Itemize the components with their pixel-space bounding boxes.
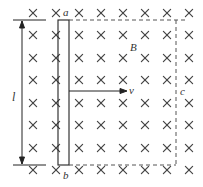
field-cross-icon bbox=[29, 166, 36, 173]
field-cross-icon bbox=[97, 76, 104, 83]
field-cross-icon bbox=[75, 31, 82, 38]
field-cross-icon bbox=[163, 76, 170, 83]
field-cross-icon bbox=[185, 144, 192, 151]
field-cross-icon bbox=[97, 31, 104, 38]
field-cross-icon bbox=[29, 9, 36, 16]
field-cross-icon bbox=[185, 76, 192, 83]
field-cross-icon bbox=[141, 166, 148, 173]
field-cross-icon bbox=[141, 31, 148, 38]
field-cross-icon bbox=[185, 54, 192, 61]
field-cross-icon bbox=[97, 54, 104, 61]
label-v: v bbox=[129, 84, 134, 96]
label-length: l bbox=[12, 90, 16, 104]
field-cross-icon bbox=[75, 99, 82, 106]
field-cross-icon bbox=[163, 9, 170, 16]
label-B: B bbox=[130, 41, 137, 53]
field-cross-icon bbox=[97, 144, 104, 151]
label-b: b bbox=[63, 169, 69, 181]
field-cross-icon bbox=[29, 76, 36, 83]
label-c: c bbox=[180, 85, 185, 97]
field-cross-icon bbox=[75, 54, 82, 61]
magnetic-field-diagram: a b B v c l bbox=[0, 0, 203, 187]
dimension-arrow-down-icon bbox=[20, 157, 25, 164]
field-cross-icon bbox=[141, 54, 148, 61]
field-cross-icon bbox=[119, 99, 126, 106]
field-cross-icon bbox=[75, 166, 82, 173]
field-cross-icon bbox=[119, 166, 126, 173]
field-cross-icon bbox=[141, 99, 148, 106]
label-a: a bbox=[63, 6, 69, 18]
field-cross-icon bbox=[119, 9, 126, 16]
field-cross-icon bbox=[97, 121, 104, 128]
field-cross-icon bbox=[29, 121, 36, 128]
field-cross-icon bbox=[185, 121, 192, 128]
field-cross-icon bbox=[163, 166, 170, 173]
field-cross-icon bbox=[141, 144, 148, 151]
dashed-region bbox=[69, 20, 186, 165]
field-cross-icon bbox=[185, 9, 192, 16]
field-cross-icon bbox=[29, 144, 36, 151]
field-cross-icon bbox=[29, 54, 36, 61]
field-cross-icon bbox=[75, 9, 82, 16]
field-cross-icon bbox=[97, 166, 104, 173]
velocity-arrow bbox=[69, 89, 127, 94]
field-cross-icon bbox=[163, 121, 170, 128]
field-cross-icon bbox=[52, 9, 59, 16]
conducting-rod bbox=[58, 20, 69, 165]
field-cross-icon bbox=[119, 76, 126, 83]
field-cross-icon bbox=[97, 9, 104, 16]
field-cross-icon bbox=[119, 121, 126, 128]
arrow-right-icon bbox=[120, 89, 127, 94]
field-cross-icon bbox=[119, 54, 126, 61]
field-cross-icon bbox=[141, 121, 148, 128]
field-cross-icon bbox=[163, 54, 170, 61]
field-cross-icon bbox=[29, 31, 36, 38]
field-cross-icon bbox=[163, 144, 170, 151]
field-cross-icon bbox=[185, 31, 192, 38]
field-cross-icon bbox=[75, 121, 82, 128]
field-cross-icon bbox=[163, 99, 170, 106]
field-cross-icon bbox=[163, 31, 170, 38]
field-cross-icon bbox=[185, 166, 192, 173]
field-cross-icon bbox=[141, 9, 148, 16]
magnetic-field-crosses bbox=[29, 9, 192, 173]
field-cross-icon bbox=[52, 166, 59, 173]
field-cross-icon bbox=[185, 99, 192, 106]
field-cross-icon bbox=[75, 76, 82, 83]
field-cross-icon bbox=[29, 99, 36, 106]
field-cross-icon bbox=[75, 144, 82, 151]
field-cross-icon bbox=[119, 144, 126, 151]
length-dimension bbox=[13, 20, 46, 165]
dimension-arrow-up-icon bbox=[20, 21, 25, 28]
field-cross-icon bbox=[119, 31, 126, 38]
field-cross-icon bbox=[141, 76, 148, 83]
field-cross-icon bbox=[97, 99, 104, 106]
